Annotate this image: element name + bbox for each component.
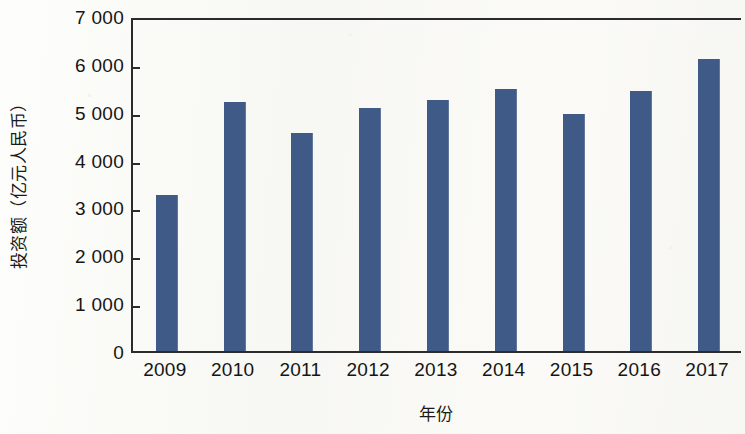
y-axis-tick-labels: 01 0002 0003 0004 0005 0006 0007 000 — [36, 0, 124, 434]
bar[interactable] — [156, 195, 178, 351]
y-axis-tick-mark — [133, 210, 140, 212]
bar[interactable] — [224, 102, 246, 351]
x-axis-tick-label: 2012 — [334, 360, 402, 379]
y-axis-tick-label: 0 — [38, 343, 124, 362]
y-axis-tick-mark — [133, 258, 140, 260]
y-axis-title-text: 投资额（亿元人民币） — [5, 94, 30, 269]
x-axis-title: 年份 — [131, 400, 741, 425]
y-axis-tick-mark — [133, 67, 140, 69]
y-axis-tick-mark — [133, 115, 140, 117]
x-axis-tick-labels: 200920102011201220132014201520162017 — [131, 360, 741, 390]
x-axis-tick-label: 2015 — [538, 360, 606, 379]
y-axis-title: 投资额（亿元人民币） — [0, 0, 34, 362]
y-axis-tick-label: 4 000 — [38, 152, 124, 171]
x-axis-tick-label: 2010 — [199, 360, 267, 379]
x-axis-tick-label: 2017 — [673, 360, 741, 379]
y-axis-tick-label: 3 000 — [38, 199, 124, 218]
bar[interactable] — [630, 91, 652, 351]
bar[interactable] — [291, 133, 313, 351]
plot-area — [133, 20, 741, 351]
bar[interactable] — [427, 100, 449, 351]
x-axis-tick-label: 2016 — [605, 360, 673, 379]
bar-chart: 投资额（亿元人民币） 01 0002 0003 0004 0005 0006 0… — [0, 0, 745, 434]
y-axis-tick-label: 7 000 — [38, 8, 124, 27]
x-axis-tick-label: 2009 — [131, 360, 199, 379]
bar[interactable] — [698, 59, 720, 351]
y-axis-tick-mark — [133, 163, 140, 165]
bar[interactable] — [495, 89, 517, 351]
y-axis-tick-mark — [133, 306, 140, 308]
x-axis-tick-label: 2011 — [267, 360, 335, 379]
x-axis-tick-label: 2013 — [402, 360, 470, 379]
y-axis-tick-label: 5 000 — [38, 104, 124, 123]
bar[interactable] — [563, 114, 585, 351]
y-axis-tick-label: 1 000 — [38, 295, 124, 314]
plot-frame — [131, 18, 741, 353]
x-axis-tick-label: 2014 — [470, 360, 538, 379]
y-axis-tick-label: 2 000 — [38, 247, 124, 266]
y-axis-tick-label: 6 000 — [38, 56, 124, 75]
bar[interactable] — [359, 108, 381, 351]
